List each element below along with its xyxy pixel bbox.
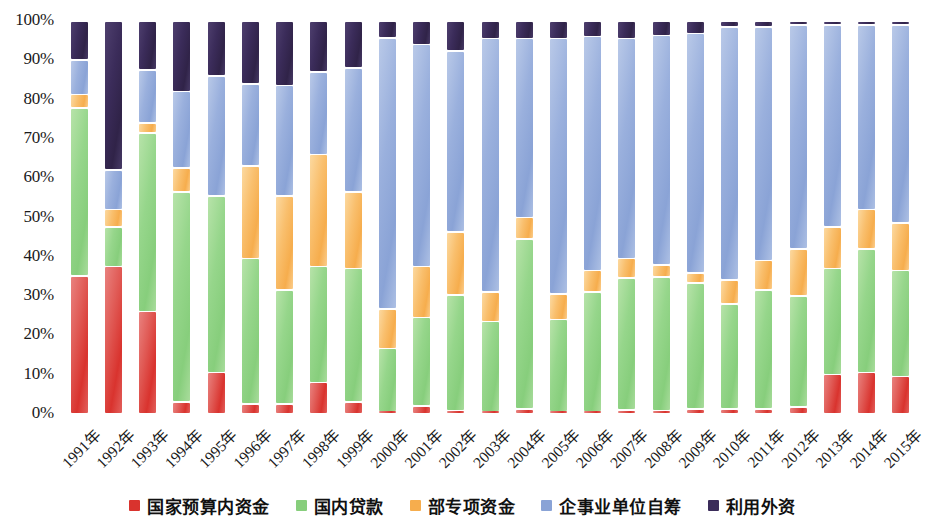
bar-segment[interactable]	[824, 228, 841, 268]
bar-segment[interactable]	[584, 271, 601, 291]
bar-segment[interactable]	[413, 45, 430, 265]
bar-segment[interactable]	[721, 22, 738, 26]
bar-segment[interactable]	[105, 210, 122, 226]
bar-segment[interactable]	[71, 61, 88, 94]
bar-segment[interactable]	[653, 22, 670, 35]
bar-segment[interactable]	[379, 349, 396, 410]
bar-segment[interactable]	[379, 22, 396, 38]
bar-2010[interactable]	[721, 20, 738, 413]
bar-segment[interactable]	[173, 92, 190, 167]
bar-segment[interactable]	[550, 39, 567, 293]
bar-2002[interactable]	[447, 20, 464, 413]
bar-segment[interactable]	[208, 197, 225, 372]
bar-segment[interactable]	[413, 318, 430, 405]
bar-segment[interactable]	[482, 322, 499, 411]
bar-segment[interactable]	[208, 373, 225, 413]
bar-segment[interactable]	[550, 22, 567, 38]
bar-segment[interactable]	[276, 291, 293, 403]
bar-2000[interactable]	[379, 20, 396, 413]
legend-item[interactable]: 企事业单位自筹	[541, 493, 682, 518]
bar-1993[interactable]	[139, 20, 156, 413]
bar-1994[interactable]	[173, 20, 190, 413]
bar-segment[interactable]	[516, 218, 533, 238]
bar-segment[interactable]	[653, 266, 670, 276]
bar-1995[interactable]	[208, 20, 225, 413]
bar-2014[interactable]	[858, 20, 875, 413]
bar-2015[interactable]	[892, 20, 909, 413]
bar-segment[interactable]	[892, 26, 909, 223]
bar-1996[interactable]	[242, 20, 259, 413]
bar-segment[interactable]	[824, 269, 841, 374]
bar-segment[interactable]	[858, 373, 875, 413]
bar-segment[interactable]	[516, 240, 533, 409]
bar-segment[interactable]	[892, 224, 909, 270]
bar-segment[interactable]	[447, 233, 464, 294]
bar-segment[interactable]	[276, 405, 293, 413]
bar-2004[interactable]	[516, 20, 533, 413]
bar-segment[interactable]	[618, 39, 635, 257]
bar-1998[interactable]	[310, 20, 327, 413]
bar-segment[interactable]	[755, 22, 772, 26]
bar-segment[interactable]	[824, 375, 841, 413]
bar-segment[interactable]	[721, 281, 738, 303]
bar-segment[interactable]	[892, 22, 909, 24]
bar-segment[interactable]	[310, 73, 327, 154]
bar-segment[interactable]	[71, 277, 88, 413]
bar-segment[interactable]	[345, 193, 362, 268]
bar-segment[interactable]	[892, 271, 909, 376]
bar-segment[interactable]	[242, 22, 259, 83]
bar-segment[interactable]	[242, 85, 259, 166]
bar-2003[interactable]	[482, 20, 499, 413]
bar-segment[interactable]	[618, 22, 635, 38]
bar-segment[interactable]	[139, 71, 156, 122]
bar-segment[interactable]	[447, 22, 464, 51]
bar-segment[interactable]	[584, 293, 601, 411]
bar-segment[interactable]	[858, 210, 875, 248]
bar-segment[interactable]	[173, 22, 190, 91]
bar-segment[interactable]	[550, 320, 567, 411]
bar-segment[interactable]	[310, 267, 327, 381]
bar-segment[interactable]	[276, 86, 293, 194]
bar-segment[interactable]	[516, 22, 533, 38]
bar-segment[interactable]	[105, 171, 122, 209]
bar-segment[interactable]	[482, 39, 499, 291]
bar-segment[interactable]	[345, 69, 362, 191]
bar-segment[interactable]	[858, 26, 875, 209]
bar-segment[interactable]	[139, 134, 156, 311]
bar-segment[interactable]	[618, 259, 635, 277]
bar-segment[interactable]	[482, 293, 499, 321]
bar-segment[interactable]	[173, 403, 190, 413]
bar-segment[interactable]	[379, 39, 396, 309]
bar-2006[interactable]	[584, 20, 601, 413]
legend-item[interactable]: 利用外资	[708, 493, 796, 518]
bar-segment[interactable]	[345, 269, 362, 401]
bar-segment[interactable]	[242, 167, 259, 258]
bar-segment[interactable]	[208, 77, 225, 195]
bar-segment[interactable]	[105, 22, 122, 170]
bar-segment[interactable]	[71, 95, 88, 107]
bar-segment[interactable]	[139, 312, 156, 413]
bar-2001[interactable]	[413, 20, 430, 413]
bar-segment[interactable]	[413, 267, 430, 316]
bar-segment[interactable]	[242, 405, 259, 413]
bar-1999[interactable]	[345, 20, 362, 413]
bar-2012[interactable]	[790, 20, 807, 413]
bar-segment[interactable]	[276, 22, 293, 85]
bar-segment[interactable]	[413, 22, 430, 44]
legend-item[interactable]: 国内贷款	[296, 493, 384, 518]
bar-segment[interactable]	[721, 305, 738, 408]
bar-segment[interactable]	[618, 279, 635, 409]
legend-item[interactable]: 国家预算内资金	[129, 493, 270, 518]
bar-segment[interactable]	[687, 274, 704, 282]
bar-segment[interactable]	[276, 197, 293, 290]
bar-segment[interactable]	[139, 22, 156, 70]
bar-segment[interactable]	[858, 250, 875, 372]
legend-item[interactable]: 部专项资金	[410, 493, 516, 518]
bar-segment[interactable]	[310, 22, 327, 71]
bar-segment[interactable]	[379, 310, 396, 348]
bar-2008[interactable]	[653, 20, 670, 413]
bar-2013[interactable]	[824, 20, 841, 413]
bar-segment[interactable]	[310, 155, 327, 265]
bar-segment[interactable]	[482, 22, 499, 38]
bar-segment[interactable]	[310, 383, 327, 413]
